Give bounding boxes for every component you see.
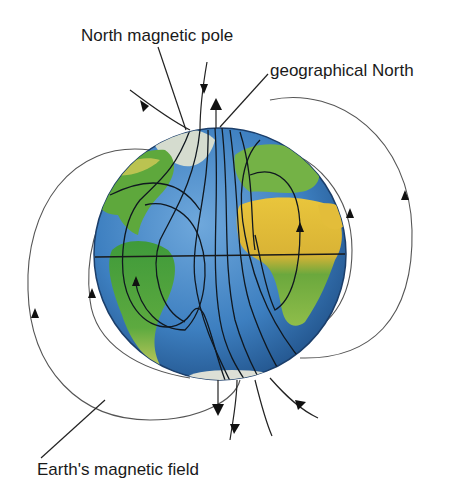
- arrow-icon: [200, 84, 208, 94]
- earths-magnetic-field-label: Earth's magnetic field: [37, 461, 199, 478]
- earth-magnetic-field-diagram: North magnetic pole geographical North E…: [0, 0, 461, 495]
- europe: [234, 144, 319, 193]
- arrow-icon: [295, 400, 306, 410]
- arrow-icon: [212, 404, 224, 416]
- arrow-icon: [210, 98, 222, 110]
- north-magnetic-pole-leader: [158, 47, 186, 130]
- geographical-north-leader: [220, 74, 268, 127]
- arrow-icon: [140, 100, 149, 112]
- earths-magnetic-field-leader: [41, 400, 105, 458]
- arrow-icon: [31, 308, 39, 318]
- north-magnetic-pole-label: North magnetic pole: [81, 27, 233, 44]
- geographical-north-label: geographical North: [270, 62, 414, 79]
- arrow-icon: [346, 208, 354, 218]
- earth-globe: [94, 128, 348, 386]
